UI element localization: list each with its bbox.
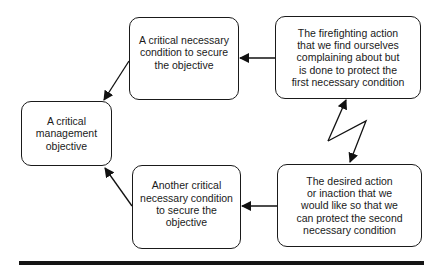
arrow-condition2-to-objective	[105, 168, 132, 206]
node-desired-line: The desired action	[296, 175, 402, 187]
node-firefighting-line: that we find ourselves	[292, 39, 405, 51]
node-condition1-line: the objective	[139, 59, 229, 71]
node-desired-line: can protect the second	[296, 212, 402, 224]
node-desired-line: necessary condition	[296, 224, 402, 236]
node-objective-line: A critical	[36, 115, 97, 127]
node-desired: The desired action or inaction that we w…	[277, 164, 422, 247]
node-condition1-line: condition to secure	[139, 46, 229, 58]
node-condition2-line: to secure the	[140, 204, 233, 216]
node-firefighting-line: first necessary condition	[292, 76, 405, 88]
node-condition2-line: necessary condition	[140, 192, 233, 204]
node-objective-line: objective	[36, 140, 97, 152]
node-condition2-line: Another critical	[140, 179, 233, 191]
node-condition2-line: objective	[140, 216, 233, 228]
node-condition2: Another critical necessary condition to …	[132, 165, 241, 249]
node-desired-line: or inaction that we	[296, 187, 402, 199]
node-firefighting-line: The firefighting action	[292, 27, 405, 39]
arrow-condition1-to-objective	[104, 61, 129, 100]
node-objective: A critical management objective	[21, 101, 112, 166]
node-firefighting-line: is done to protect the	[292, 64, 405, 76]
node-desired-line: would like so that we	[296, 199, 402, 211]
conflict-lightning-icon	[328, 100, 366, 162]
node-firefighting: The firefighting action that we find our…	[275, 16, 421, 99]
node-condition1: A critical necessary condition to secure…	[129, 17, 239, 100]
node-condition1-line: A critical necessary	[139, 34, 229, 46]
node-firefighting-line: complaining about but	[292, 51, 405, 63]
bottom-rule-divider	[19, 261, 424, 265]
node-objective-line: management	[36, 127, 97, 139]
